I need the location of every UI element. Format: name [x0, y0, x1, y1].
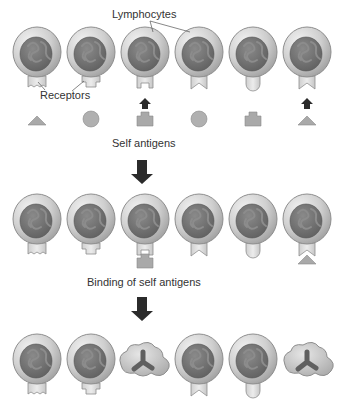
- lymphocyte-4: [175, 27, 223, 89]
- row-binding: [13, 194, 331, 268]
- receptors-label: Receptors: [40, 89, 90, 101]
- lymphocyte-1: [13, 334, 61, 394]
- lymphocyte-2: [67, 334, 115, 394]
- lymphocyte-6: [283, 27, 331, 89]
- antigen-plus-block-icon: [137, 112, 153, 126]
- antigen-plus-block-icon: [245, 112, 261, 126]
- antigen-triangle-icon: [298, 116, 316, 125]
- lymphocytes-label: Lymphocytes: [112, 8, 176, 20]
- row-deletion: [13, 334, 333, 398]
- antigen-triangle-icon: [28, 116, 46, 125]
- antigen-circle-icon: [191, 111, 207, 127]
- lymphocyte-4: [175, 334, 223, 396]
- binding-arrow-6: [301, 98, 313, 109]
- antigen-circle-icon: [83, 111, 99, 127]
- apoptotic-cell-6: [284, 342, 333, 376]
- lymphocyte-5: [229, 334, 277, 398]
- lymphocyte-6-bound: [283, 194, 331, 264]
- self-antigens-label: Self antigens: [112, 137, 176, 149]
- binding-label: Binding of self antigens: [87, 276, 201, 288]
- apoptotic-cell-3: [120, 342, 169, 376]
- lymphocyte-1: [13, 27, 61, 87]
- lymphocyte-5: [229, 194, 277, 258]
- lymphocyte-1: [13, 194, 61, 254]
- clonal-deletion-diagram: [0, 0, 340, 400]
- lymphocyte-2: [67, 194, 115, 254]
- binding-arrow-3: [139, 98, 151, 109]
- self-antigens-row: [28, 111, 316, 127]
- lymphocyte-4: [175, 194, 223, 256]
- lymphocyte-5: [229, 27, 277, 91]
- lymphocyte-3: [121, 27, 169, 88]
- down-arrow-icon: [131, 297, 153, 321]
- lymphocyte-3-bound: [121, 194, 169, 268]
- down-arrow-icon: [131, 160, 153, 184]
- row-initial-lymphocytes: [13, 27, 331, 91]
- lymphocyte-2: [67, 27, 115, 87]
